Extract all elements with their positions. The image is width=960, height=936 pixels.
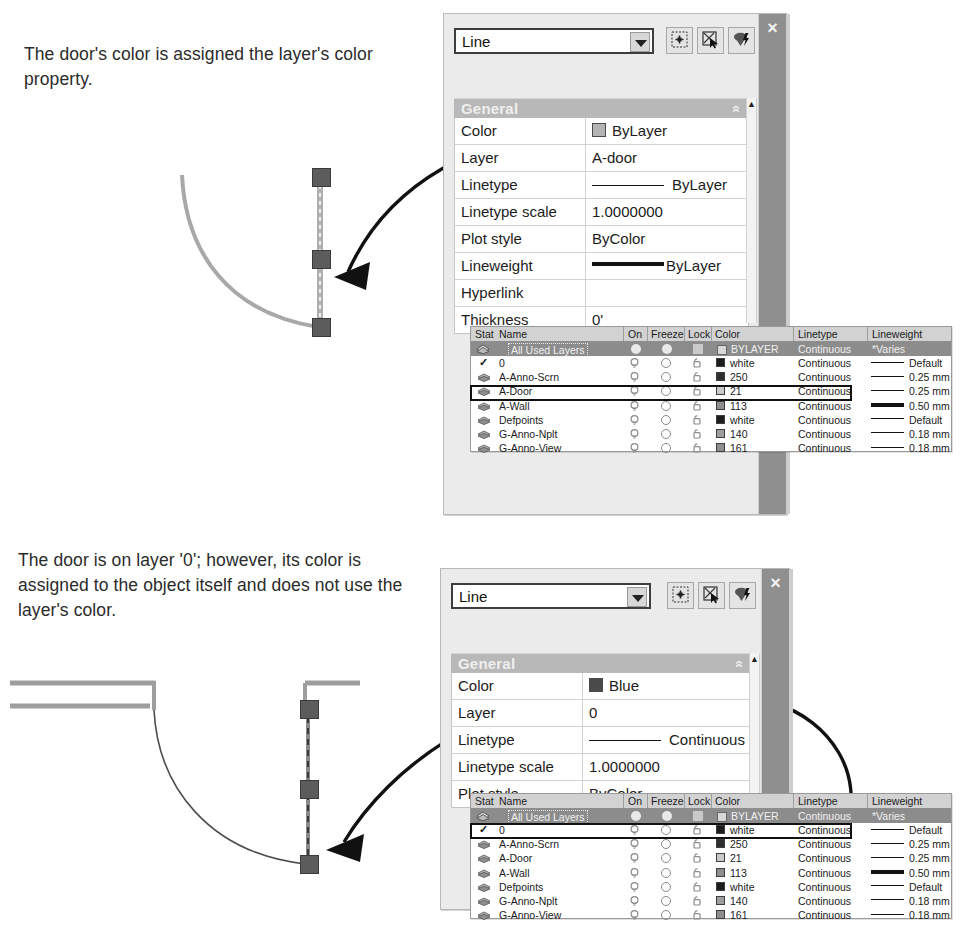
- layer-row[interactable]: ✓0whiteContinuousDefault: [471, 356, 951, 370]
- lock-icon[interactable]: [693, 811, 703, 821]
- color-swatch[interactable]: [717, 345, 727, 355]
- layer-row[interactable]: A-Door21Continuous0.25 mm: [471, 851, 951, 865]
- lock-icon[interactable]: [692, 400, 703, 411]
- lock-icon[interactable]: [692, 881, 703, 892]
- color-swatch[interactable]: [716, 910, 725, 919]
- close-icon[interactable]: ×: [767, 575, 784, 592]
- layer-row[interactable]: G-Anno-Nplt140Continuous0.18 mm: [471, 427, 951, 441]
- column-header-color[interactable]: Color: [715, 795, 740, 807]
- freeze-sun-icon[interactable]: [661, 358, 671, 368]
- lock-icon[interactable]: [692, 895, 703, 906]
- lock-icon[interactable]: [692, 838, 703, 849]
- grip-point[interactable]: [300, 700, 319, 719]
- layer-row[interactable]: A-Wall113Continuous0.50 mm: [471, 866, 951, 880]
- palette-scrollbar-top[interactable]: ▲: [746, 98, 757, 323]
- color-swatch[interactable]: [716, 358, 725, 367]
- property-row[interactable]: Linetype scale 1.0000000: [452, 754, 751, 781]
- column-header-stat[interactable]: Stat: [475, 328, 494, 340]
- color-swatch[interactable]: [716, 853, 725, 862]
- lock-icon[interactable]: [692, 414, 703, 425]
- palette-scrollbar-bottom[interactable]: ▲: [749, 653, 760, 808]
- grip-point[interactable]: [300, 780, 319, 799]
- on-bulb-icon[interactable]: [630, 896, 639, 907]
- grip-point[interactable]: [312, 250, 331, 269]
- on-bulb-icon[interactable]: [630, 372, 639, 383]
- freeze-sun-icon[interactable]: [661, 839, 671, 849]
- layer-row[interactable]: G-Anno-Nplt140Continuous0.18 mm: [471, 894, 951, 908]
- on-bulb-icon[interactable]: [631, 811, 641, 821]
- freeze-sun-icon[interactable]: [661, 896, 671, 906]
- freeze-sun-icon[interactable]: [661, 910, 671, 920]
- layer-row[interactable]: DefpointswhiteContinuousDefault: [471, 880, 951, 894]
- freeze-sun-icon[interactable]: [661, 372, 671, 382]
- property-row[interactable]: Linetype Continuous: [452, 727, 751, 754]
- freeze-sun-icon[interactable]: [661, 868, 671, 878]
- lock-icon[interactable]: [692, 371, 703, 382]
- column-header-lock[interactable]: Lock: [688, 328, 710, 340]
- lock-icon[interactable]: [692, 428, 703, 439]
- general-section-header-top[interactable]: General «: [454, 98, 749, 119]
- property-row[interactable]: Lineweight ByLayer: [455, 253, 748, 280]
- freeze-sun-icon[interactable]: [662, 344, 672, 354]
- quick-select-icon[interactable]: [666, 27, 693, 54]
- freeze-sun-icon[interactable]: [661, 401, 671, 411]
- freeze-sun-icon[interactable]: [661, 853, 671, 863]
- column-header-stat[interactable]: Stat: [475, 795, 494, 807]
- general-section-header-bottom[interactable]: General «: [451, 653, 752, 674]
- property-row[interactable]: Layer A-door: [455, 145, 748, 172]
- on-bulb-icon[interactable]: [630, 415, 639, 426]
- column-header-on[interactable]: On: [628, 795, 642, 807]
- column-header-on[interactable]: On: [628, 328, 642, 340]
- column-header-linetype[interactable]: Linetype: [798, 328, 838, 340]
- quick-calc-icon[interactable]: [728, 27, 755, 54]
- property-row[interactable]: Linetype ByLayer: [455, 172, 748, 199]
- column-header-lock[interactable]: Lock: [688, 795, 710, 807]
- color-swatch[interactable]: [716, 896, 725, 905]
- grip-point[interactable]: [312, 318, 331, 337]
- chevron-down-icon[interactable]: [627, 587, 647, 607]
- collapse-chevron-icon[interactable]: «: [729, 105, 745, 113]
- freeze-sun-icon[interactable]: [661, 882, 671, 892]
- column-header-color[interactable]: Color: [715, 328, 740, 340]
- column-header-lineweight[interactable]: Lineweight: [872, 795, 922, 807]
- property-row[interactable]: Color Blue: [452, 673, 751, 700]
- on-bulb-icon[interactable]: [630, 358, 639, 369]
- color-swatch[interactable]: [717, 812, 727, 822]
- on-bulb-icon[interactable]: [630, 853, 639, 864]
- color-swatch[interactable]: [716, 868, 725, 877]
- property-row[interactable]: Color ByLayer: [455, 118, 748, 145]
- layer-row[interactable]: DefpointswhiteContinuousDefault: [471, 413, 951, 427]
- on-bulb-icon[interactable]: [631, 344, 641, 354]
- lock-icon[interactable]: [692, 852, 703, 863]
- on-bulb-icon[interactable]: [630, 882, 639, 893]
- color-swatch[interactable]: [716, 882, 725, 891]
- chevron-down-icon[interactable]: [630, 32, 650, 52]
- color-swatch[interactable]: [716, 839, 725, 848]
- lock-icon[interactable]: [692, 867, 703, 878]
- quick-calc-icon[interactable]: [729, 582, 756, 609]
- freeze-sun-icon[interactable]: [662, 811, 672, 821]
- object-type-combo-top[interactable]: Line: [454, 28, 654, 54]
- select-objects-icon[interactable]: [697, 27, 724, 54]
- column-header-freeze[interactable]: Freeze: [651, 328, 684, 340]
- layer-row-all-used[interactable]: All Used Layers BYLAYER Continuous *Vari…: [471, 809, 951, 823]
- property-row[interactable]: Linetype scale 1.0000000: [455, 199, 748, 226]
- column-header-freeze[interactable]: Freeze: [651, 795, 684, 807]
- grip-point[interactable]: [312, 168, 331, 187]
- close-icon[interactable]: ×: [764, 20, 781, 37]
- freeze-sun-icon[interactable]: [661, 415, 671, 425]
- quick-select-icon[interactable]: [667, 582, 694, 609]
- collapse-chevron-icon[interactable]: «: [732, 660, 748, 668]
- on-bulb-icon[interactable]: [630, 839, 639, 850]
- layer-row[interactable]: G-Anno-View161Continuous0.18 mm: [471, 441, 951, 455]
- lock-icon[interactable]: [693, 344, 703, 354]
- column-header-linetype[interactable]: Linetype: [798, 795, 838, 807]
- column-header-name[interactable]: Name: [499, 328, 527, 340]
- on-bulb-icon[interactable]: [630, 429, 639, 440]
- color-swatch[interactable]: [716, 372, 725, 381]
- color-swatch[interactable]: [716, 401, 725, 410]
- layer-row[interactable]: A-Anno-Scrn250Continuous0.25 mm: [471, 837, 951, 851]
- select-objects-icon[interactable]: [698, 582, 725, 609]
- color-swatch[interactable]: [716, 429, 725, 438]
- lock-icon[interactable]: [692, 909, 703, 920]
